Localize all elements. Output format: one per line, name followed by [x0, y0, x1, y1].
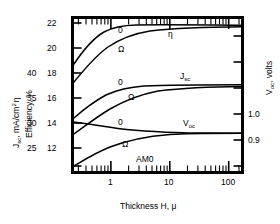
- annotation-am0: AM0: [136, 155, 153, 164]
- jsc-axis-title-j: J: [11, 144, 21, 148]
- voc-axis-title: Voc, volts: [265, 61, 274, 95]
- x-axis-ticks-bottom: [78, 161, 239, 173]
- jsc-axis-title-sup: 2: [11, 103, 17, 106]
- jsc-tick-25: 25: [27, 144, 36, 153]
- jsc-axis-title: Jsc, mA/cm2η: [12, 98, 21, 149]
- curve-voc-0: [74, 122, 242, 133]
- eff-tick-18: 18: [47, 69, 56, 78]
- voc-axis-title-v: V: [264, 89, 274, 95]
- voc-axis-title-sub: oc: [269, 83, 275, 89]
- eff-tick-14: 14: [47, 119, 56, 128]
- chart-canvas: [0, 0, 280, 224]
- curve-label-omega-eta: Ω: [118, 45, 124, 54]
- curve-jsc-0: [74, 85, 242, 118]
- curve-label-zero-voc: 0: [118, 118, 123, 127]
- curve-voc-omega: [74, 133, 242, 166]
- voc-tick-0-9: 0.9: [248, 136, 260, 145]
- series-label-voc-v: V: [183, 118, 189, 128]
- curve-label-omega-voc: Ω: [122, 140, 128, 149]
- x-tick-100: 100: [221, 178, 235, 187]
- voc-axis-title-rest: , volts: [264, 61, 274, 83]
- curve-jsc-omega: [74, 86, 242, 134]
- series-label-voc: Voc: [183, 119, 195, 128]
- jsc-tick-40: 40: [27, 69, 36, 78]
- series-label-jsc: Jsc: [180, 72, 190, 81]
- plot-frame: [73, 18, 243, 173]
- x-tick-10: 10: [164, 178, 173, 187]
- x-axis-title: Thickness H, μ: [120, 202, 176, 211]
- x-tick-1: 1: [108, 178, 113, 187]
- figure-container: 22 20 18 16 14 12 40 35 30 25 1.0 0.9 1 …: [0, 0, 280, 224]
- curve-label-omega-jsc: Ω: [128, 93, 134, 102]
- efficiency-axis-title: Efficiency, %: [25, 90, 34, 138]
- eff-tick-22: 22: [47, 19, 56, 28]
- jsc-axis-title-rest: , mA/cm: [11, 107, 21, 138]
- jsc-axis-title-sub: sc: [16, 138, 22, 144]
- voc-tick-1-0: 1.0: [248, 110, 260, 119]
- series-label-voc-sub: oc: [189, 123, 195, 129]
- curve-label-zero-eta: 0: [118, 26, 123, 35]
- series-label-jsc-sub: sc: [184, 76, 190, 82]
- eff-tick-16: 16: [47, 94, 56, 103]
- series-label-eta: η: [168, 30, 173, 39]
- curve-label-zero-jsc: 0: [118, 78, 123, 87]
- jsc-axis-title-eta: η: [11, 98, 21, 103]
- eff-tick-12: 12: [47, 144, 56, 153]
- eff-tick-20: 20: [47, 44, 56, 53]
